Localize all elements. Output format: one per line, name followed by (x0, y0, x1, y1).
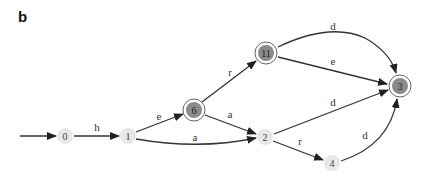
node-6-final: 6 (183, 99, 205, 121)
svg-text:1: 1 (126, 131, 131, 142)
edge-label-4-3: d (362, 129, 368, 141)
edge-label-2-4: r (298, 135, 302, 147)
edge-label-6-2: a (228, 108, 233, 120)
svg-text:6: 6 (192, 105, 197, 116)
edge-label-6-11: r (228, 66, 232, 78)
edge-label-0-1: h (94, 121, 100, 133)
edge-4-3 (341, 99, 397, 161)
svg-text:4: 4 (330, 158, 335, 169)
svg-text:3: 3 (398, 81, 403, 92)
node-4: 4 (324, 155, 340, 171)
edge-label-2-3: d (330, 96, 336, 108)
edge-label-1-6: e (157, 110, 162, 122)
node-1: 1 (120, 128, 136, 144)
node-2: 2 (257, 129, 273, 145)
node-11-final: 11 (255, 42, 277, 64)
svg-text:2: 2 (263, 132, 268, 143)
node-3-final: 3 (389, 75, 411, 97)
edges: h e a r a d e d r d (20, 20, 397, 161)
edge-label-11-3-upper: d (330, 20, 336, 32)
node-0: 0 (57, 128, 73, 144)
svg-text:0: 0 (63, 131, 68, 142)
edge-11-3-upper (278, 32, 396, 73)
svg-text:11: 11 (261, 48, 271, 59)
edge-label-1-2: a (193, 131, 198, 143)
edge-label-11-3: e (331, 55, 336, 67)
automaton-diagram: h e a r a d e d r d 0 1 6 11 (0, 0, 430, 176)
